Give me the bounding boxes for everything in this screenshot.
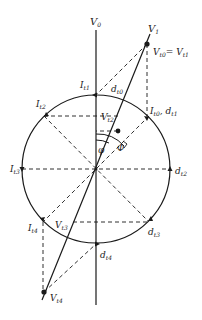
- dt2-label: dt2: [175, 166, 187, 177]
- vt2-label: Vt2: [101, 112, 114, 123]
- phi-big-label: Φ: [117, 143, 124, 153]
- it1-label: It1: [79, 80, 90, 91]
- vt2-point: [116, 129, 121, 134]
- phasor-circle-diagram: V0 V1 Vt0= Vt1 It1 dt0 It0, dt1 It2 Vt2 …: [0, 0, 202, 320]
- vt0-vt1-label: Vt0= Vt1: [153, 47, 189, 58]
- it3-label: It3: [9, 164, 20, 175]
- it2-label: It2: [35, 99, 46, 110]
- v1-point: [144, 41, 149, 46]
- vt3-label: Vt3: [55, 220, 68, 231]
- center-point: [95, 168, 98, 171]
- v1-label: V1: [148, 23, 159, 35]
- it4-label: It4: [27, 223, 38, 234]
- dt4-label: dt4: [100, 250, 112, 261]
- phi-small-label: φ: [98, 145, 105, 155]
- it0-dt1-label: It0, dt1: [149, 106, 178, 117]
- dt0-label: dt0: [111, 84, 123, 95]
- vt4-point: [41, 289, 46, 294]
- vt4-label: Vt4: [50, 293, 63, 304]
- v0-label: V0: [90, 16, 101, 28]
- dt3-label: dt3: [148, 227, 160, 238]
